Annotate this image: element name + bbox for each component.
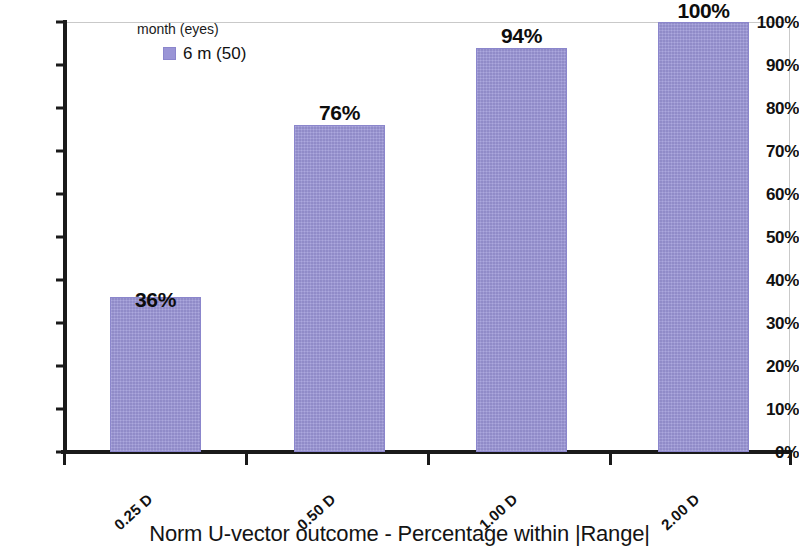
legend-color-swatch-icon: [163, 47, 176, 60]
bar-1.00-D: [476, 48, 567, 452]
legend-entry-6m: 6 m (50): [163, 45, 327, 62]
legend: month (eyes) 6 m (50): [137, 22, 327, 62]
bar-value-label: 100%: [658, 0, 749, 23]
y-axis-tick-mark: [56, 279, 66, 282]
chart-title: Norm U-vector outcome - Percentage withi…: [0, 521, 799, 547]
y-axis-tick-mark: [56, 64, 66, 67]
y-axis-tick-mark: [56, 236, 66, 239]
bar-value-label: 94%: [476, 24, 567, 48]
bar-0.50-D: [294, 125, 385, 452]
x-axis-tick-mark: [245, 452, 248, 465]
bar-chart-figure: 100% 90% 80% 70% 60% 50% 40% 30% 20% 10%…: [0, 0, 799, 559]
y-axis-tick-mark: [56, 107, 66, 110]
y-axis-tick-mark: [56, 408, 66, 411]
y-axis-tick-mark: [56, 365, 66, 368]
bar-2.00-D: [658, 22, 749, 452]
bar-value-label: 76%: [294, 101, 385, 125]
y-axis-tick-mark: [56, 193, 66, 196]
bar-0.25-D: [110, 297, 201, 452]
y-axis-tick-mark: [56, 21, 66, 24]
y-axis-tick-mark: [56, 322, 66, 325]
y-axis-tick-mark: [56, 150, 66, 153]
legend-title: month (eyes): [137, 22, 327, 37]
bar-value-label: 36%: [110, 288, 201, 312]
x-axis-tick-mark: [427, 452, 430, 465]
x-axis-tick-mark: [609, 452, 612, 465]
legend-entry-label: 6 m (50): [183, 45, 246, 62]
x-axis-tick-mark: [789, 452, 792, 465]
x-axis-tick-mark: [63, 452, 66, 465]
